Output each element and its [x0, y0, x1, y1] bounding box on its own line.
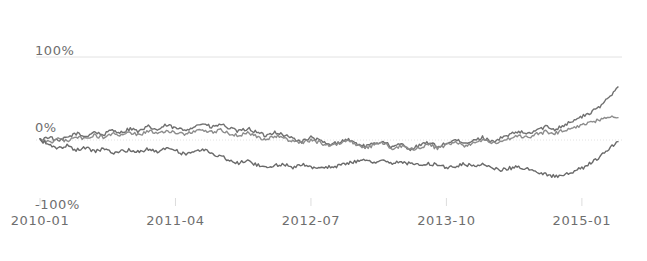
y-tick-label-100: 100%: [35, 44, 75, 57]
y-tick-label-0: 0%: [35, 121, 57, 134]
chart-plot-area: [0, 0, 647, 261]
y-tick-label-neg100: -100%: [35, 198, 80, 211]
cumulative-returns-line-chart: 100% 0% -100% 2010-012011-042012-072013-…: [0, 0, 647, 261]
series-paths: [40, 87, 618, 178]
line-series-1: [40, 87, 618, 151]
x-axis-tick-marks: [40, 198, 582, 206]
gridlines: [36, 57, 622, 140]
